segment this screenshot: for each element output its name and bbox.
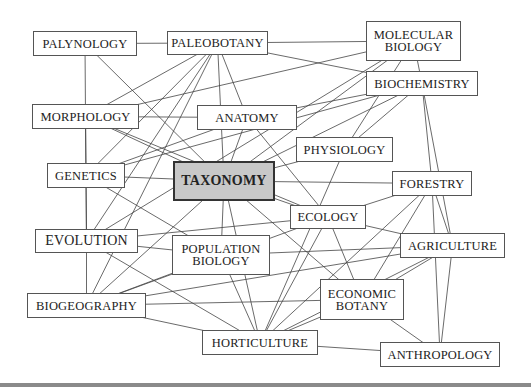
node-horticulture: HORTICULTURE [202, 330, 318, 355]
bottom-border [0, 383, 531, 387]
edge-biochemistry-forestry [422, 84, 432, 184]
node-population-biology: POPULATION BIOLOGY [172, 235, 270, 275]
node-morphology: MORPHOLOGY [32, 104, 139, 129]
node-label: BIOCHEMISTRY [374, 78, 469, 90]
node-paleobotany: PALEOBOTANY [167, 31, 268, 55]
node-label: BIOGEOGRAPHY [36, 300, 137, 312]
node-palynology: PALYNOLOGY [33, 31, 137, 56]
node-evolution: EVOLUTION [35, 229, 138, 253]
node-label: GENETICS [55, 170, 117, 182]
node-label: ANTHROPOLOGY [387, 349, 492, 361]
node-agriculture: AGRICULTURE [400, 233, 505, 258]
node-label: AGRICULTURE [408, 240, 497, 252]
node-label: PHYSIOLOGY [304, 144, 386, 156]
edge-ecology-horticulture [260, 217, 328, 343]
node-label: ECONOMIC BOTANY [328, 288, 396, 312]
node-molecular-biology: MOLECULAR BIOLOGY [366, 21, 461, 61]
node-label: FORESTRY [400, 178, 465, 190]
node-ecology: ECOLOGY [290, 205, 366, 229]
node-anthropology: ANTHROPOLOGY [380, 342, 500, 367]
edge-biochemistry-agriculture [422, 84, 453, 246]
node-label: ECOLOGY [297, 211, 358, 223]
node-label: ANATOMY [215, 112, 279, 124]
node-label: MORPHOLOGY [40, 111, 130, 123]
node-label: HORTICULTURE [212, 337, 308, 349]
node-label: PALYNOLOGY [42, 38, 127, 50]
edge-paleobotany-evolution [87, 43, 218, 241]
node-taxonomy: TAXONOMY [173, 161, 275, 201]
edge-agriculture-anthropology [440, 246, 453, 355]
node-forestry: FORESTRY [392, 171, 472, 196]
node-physiology: PHYSIOLOGY [296, 137, 393, 162]
node-label: TAXONOMY [181, 175, 266, 187]
node-anatomy: ANATOMY [197, 105, 297, 130]
node-biogeography: BIOGEOGRAPHY [27, 293, 146, 318]
node-label: POPULATION BIOLOGY [181, 243, 260, 267]
node-label: MOLECULAR BIOLOGY [374, 29, 454, 53]
node-genetics: GENETICS [47, 163, 125, 188]
node-economic-botany: ECONOMIC BOTANY [320, 279, 404, 320]
edge-forestry-anthropology [432, 184, 440, 355]
node-label: PALEOBOTANY [171, 37, 263, 49]
node-biochemistry: BIOCHEMISTRY [366, 71, 478, 96]
node-label: EVOLUTION [45, 235, 128, 247]
